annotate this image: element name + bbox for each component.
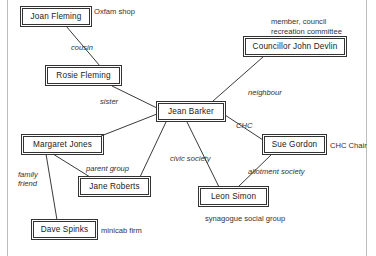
node-sue[interactable]: Sue Gordon bbox=[264, 136, 325, 153]
node-label-rosie: Rosie Fleming bbox=[56, 71, 110, 80]
node-label-dave: Dave Spinks bbox=[41, 225, 89, 234]
node-label-sue: Sue Gordon bbox=[272, 140, 318, 149]
node-label-margaret: Margaret Jones bbox=[33, 140, 92, 149]
edge-label-jean-leon: civic society bbox=[170, 154, 211, 163]
diagram-canvas: Joan FlemingRosie FlemingJean BarkerCoun… bbox=[0, 0, 376, 256]
node-leon[interactable]: Leon Simon bbox=[200, 188, 267, 205]
node-label-councillor: Councillor John Devlin bbox=[253, 42, 338, 51]
node-dave[interactable]: Dave Spinks bbox=[33, 221, 96, 238]
edge-label-sue-leon: allotment society bbox=[248, 167, 305, 176]
edge-label-margaret-dave: family friend bbox=[18, 170, 38, 188]
annotation-synagogue: synagogue social group bbox=[205, 214, 285, 224]
node-margaret[interactable]: Margaret Jones bbox=[23, 136, 102, 153]
node-joan[interactable]: Joan Fleming bbox=[22, 8, 90, 25]
annotation-oxfam: Oxfam shop bbox=[94, 7, 135, 17]
node-jean[interactable]: Jean Barker bbox=[158, 103, 224, 120]
node-label-jean: Jean Barker bbox=[168, 107, 214, 116]
edge-label-joan-rosie: cousin bbox=[71, 43, 93, 52]
edge-label-councillor-jean: neighbour bbox=[248, 88, 282, 97]
node-label-leon: Leon Simon bbox=[211, 192, 256, 201]
annotation-chc-chair: CHC Chair bbox=[330, 141, 367, 151]
edge-label-rosie-jean: sister bbox=[100, 97, 118, 106]
annotation-minicab: minicab firm bbox=[101, 226, 142, 236]
node-label-jane: Jane Roberts bbox=[89, 182, 140, 191]
edge-label-jean-sue: CHC bbox=[236, 121, 252, 130]
edge-label-margaret-jane: parent group bbox=[86, 164, 129, 173]
node-jane[interactable]: Jane Roberts bbox=[80, 178, 149, 195]
edge-margaret-dave bbox=[46, 154, 57, 220]
edge-jean-margaret bbox=[101, 114, 157, 136]
edge-rosie-jean bbox=[112, 86, 157, 108]
node-councillor[interactable]: Councillor John Devlin bbox=[245, 38, 345, 55]
edge-margaret-jane bbox=[53, 154, 90, 177]
node-label-joan: Joan Fleming bbox=[31, 12, 82, 21]
node-rosie[interactable]: Rosie Fleming bbox=[47, 67, 120, 84]
annotation-committee: member, council recreation committee bbox=[271, 17, 342, 36]
edge-jean-jane bbox=[140, 122, 166, 177]
